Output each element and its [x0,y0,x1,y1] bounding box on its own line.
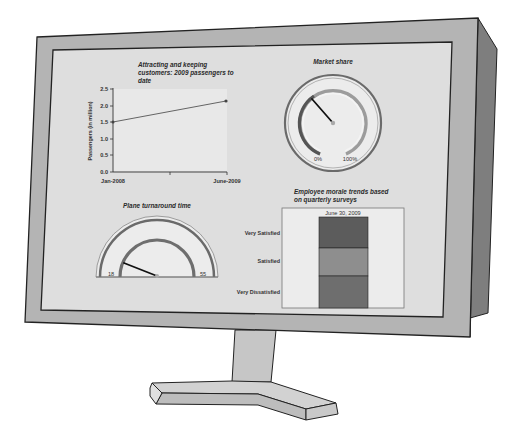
x-tick-label: June-2009 [213,178,240,184]
morale-column-label: June 30, 2009 [325,210,360,216]
semi-gauge-hub [155,274,159,278]
bar-very-satisfied [319,217,368,248]
plot-area [113,89,227,171]
data-point [224,99,227,102]
bar-very-dissatisfied [319,276,368,308]
morale-title-line-2: on quarterly surveys [294,196,357,204]
y-tick-label: 2.0 [100,103,108,109]
y-tick-label: 1.0 [100,136,108,142]
y-tick-label: 1.5 [100,119,108,125]
x-tick-label: Jan-2008 [101,178,125,184]
morale-title-line-1: Employee morale trends based [294,188,390,196]
stand-neck [232,330,276,382]
gauge-max-label: 100% [343,156,357,162]
plane-turnaround-title: Plane turnaround time [123,202,191,209]
bar-satisfied [319,248,368,276]
y-axis-label: Passengers (in million) [87,101,93,160]
monitor-stand [150,330,338,420]
category-label: Very Satisfied [245,230,280,236]
monitor-illustration: Attracting and keeping customers: 2009 p… [0,0,525,445]
passengers-chart-title-line-2: customers: 2009 passengers to [138,69,234,77]
semi-gauge-max-label: 55 [200,271,206,277]
passengers-chart-title-line-1: Attracting and keeping [137,61,207,69]
gauge-min-label: 0% [314,156,322,162]
data-point [112,121,115,124]
y-tick-label: 0.5 [100,152,108,158]
semi-gauge-min-label: 18 [108,271,114,277]
y-tick-label: 2.5 [100,86,108,92]
gauge-hub [331,121,335,125]
passengers-chart-title-line-3: date [138,77,152,84]
category-label: Satisfied [258,258,280,264]
market-share-title: Market share [313,58,353,65]
category-label: Very Dissatisfied [237,289,280,295]
y-tick-label: 0.0 [100,169,108,175]
